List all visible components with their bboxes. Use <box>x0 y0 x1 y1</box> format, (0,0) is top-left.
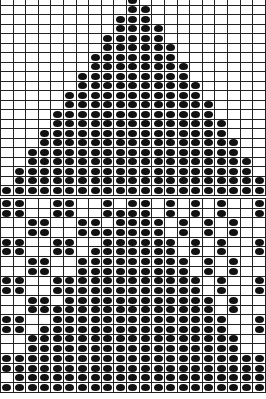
dot-icon <box>65 149 74 156</box>
empty-cell <box>215 15 228 25</box>
empty-cell <box>227 208 240 218</box>
dot-icon <box>15 365 24 372</box>
empty-cell <box>51 295 64 305</box>
filled-cell <box>152 138 165 148</box>
grid-row <box>1 286 266 296</box>
dot-icon <box>78 345 87 352</box>
dot-icon <box>78 111 87 118</box>
empty-cell <box>38 119 51 129</box>
filled-cell <box>164 247 177 257</box>
filled-cell <box>164 324 177 334</box>
dot-icon <box>116 92 125 99</box>
empty-cell <box>64 34 77 44</box>
filled-cell <box>51 186 64 196</box>
filled-cell <box>139 5 152 15</box>
filled-cell <box>101 383 114 393</box>
dot-icon <box>141 82 150 89</box>
filled-cell <box>51 354 64 364</box>
dot-icon <box>53 177 62 184</box>
dot-icon <box>154 120 163 127</box>
empty-cell <box>13 43 26 53</box>
grid-table <box>0 0 266 196</box>
filled-cell <box>253 247 266 257</box>
empty-cell <box>253 257 266 267</box>
filled-cell <box>127 91 140 101</box>
filled-cell <box>215 208 228 218</box>
filled-cell <box>202 218 215 228</box>
dot-icon <box>191 277 200 284</box>
empty-cell <box>202 72 215 82</box>
filled-cell <box>139 237 152 247</box>
filled-cell <box>152 62 165 72</box>
dot-icon <box>191 355 200 362</box>
empty-cell <box>1 167 14 177</box>
empty-cell <box>13 24 26 34</box>
filled-cell <box>164 186 177 196</box>
filled-cell <box>76 324 89 334</box>
filled-cell <box>152 354 165 364</box>
filled-cell <box>190 247 203 257</box>
dot-icon <box>91 101 100 108</box>
empty-cell <box>64 81 77 91</box>
dot-icon <box>191 200 200 207</box>
empty-cell <box>190 24 203 34</box>
dot-icon <box>154 335 163 342</box>
dot-icon <box>15 239 24 246</box>
dot-icon <box>65 177 74 184</box>
empty-cell <box>190 34 203 44</box>
empty-cell <box>227 91 240 101</box>
empty-cell <box>164 15 177 25</box>
dot-icon <box>179 82 188 89</box>
empty-cell <box>1 34 14 44</box>
dot-icon <box>217 158 226 165</box>
grid-row <box>1 344 266 354</box>
filled-cell <box>139 157 152 167</box>
filled-cell <box>101 266 114 276</box>
empty-cell <box>240 315 253 325</box>
dot-icon <box>116 44 125 51</box>
dot-icon <box>78 187 87 194</box>
filled-cell <box>89 373 102 383</box>
filled-cell <box>114 176 127 186</box>
filled-cell <box>177 373 190 383</box>
filled-cell <box>64 167 77 177</box>
dot-icon <box>191 130 200 137</box>
dot-icon <box>217 335 226 342</box>
filled-cell <box>227 305 240 315</box>
dot-icon <box>116 63 125 70</box>
dot-icon <box>166 92 175 99</box>
dot-icon <box>166 287 175 294</box>
filled-cell <box>164 257 177 267</box>
empty-cell <box>240 91 253 101</box>
dot-icon <box>204 101 213 108</box>
filled-cell <box>164 208 177 218</box>
empty-cell <box>215 257 228 267</box>
filled-cell <box>127 324 140 334</box>
dot-icon <box>141 73 150 80</box>
filled-cell <box>177 324 190 334</box>
filled-cell <box>177 72 190 82</box>
filled-cell <box>190 383 203 393</box>
dot-icon <box>204 316 213 323</box>
empty-cell <box>202 199 215 209</box>
empty-cell <box>202 81 215 91</box>
filled-cell <box>26 383 39 393</box>
dot-icon <box>103 258 112 265</box>
dot-icon <box>141 384 150 391</box>
dot-icon <box>103 297 112 304</box>
filled-cell <box>1 363 14 373</box>
dot-icon <box>103 239 112 246</box>
empty-cell <box>13 91 26 101</box>
filled-cell <box>202 100 215 110</box>
filled-cell <box>127 247 140 257</box>
dot-icon <box>166 168 175 175</box>
filled-cell <box>1 315 14 325</box>
dot-icon <box>166 384 175 391</box>
empty-cell <box>177 5 190 15</box>
empty-cell <box>227 100 240 110</box>
empty-cell <box>114 199 127 209</box>
dot-icon <box>28 345 37 352</box>
dot-icon <box>15 384 24 391</box>
dot-icon <box>116 158 125 165</box>
filled-cell <box>202 344 215 354</box>
